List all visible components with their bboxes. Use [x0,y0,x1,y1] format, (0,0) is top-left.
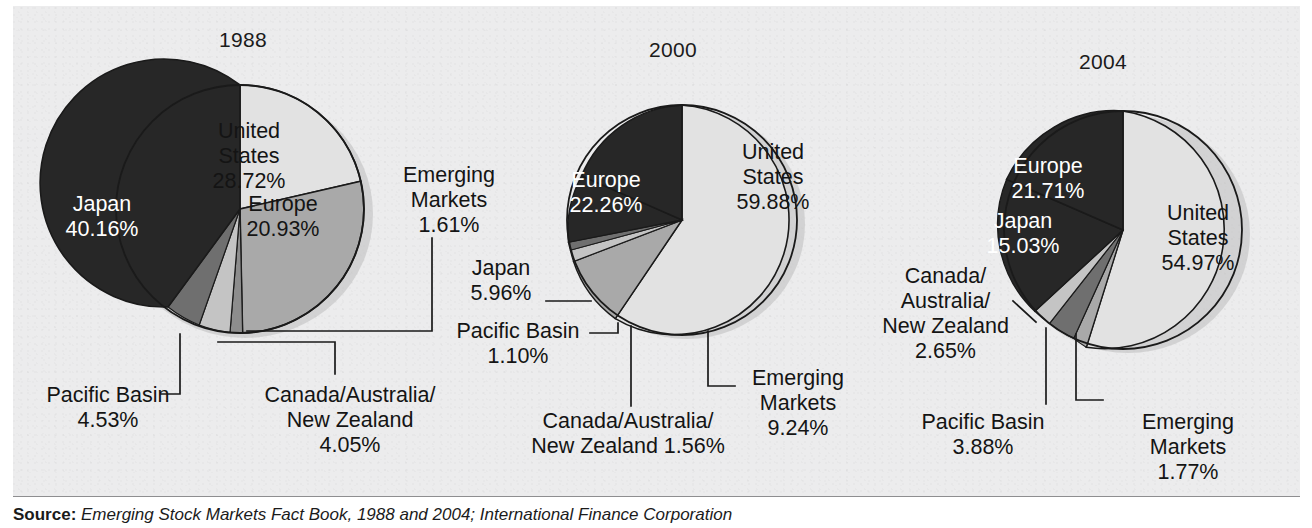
leader-2004-emerging [1076,334,1103,400]
caption-text: Emerging Stock Markets Fact Book, 1988 a… [76,505,732,524]
source-caption: Source: Emerging Stock Markets Fact Book… [13,505,1303,525]
leader-1988-pacific [161,334,180,394]
leader-1988-canada [218,342,335,374]
leader-1988-emerging [247,238,432,331]
chart-panel: 1988 United States 28.72% Europe 20.93% [13,6,1300,497]
leader-2000-emerging [708,331,735,386]
leader-2004-canada [1013,301,1036,322]
leader-2000-pacific [590,323,618,333]
caption-prefix: Source: [13,505,76,524]
figure-root: 1988 United States 28.72% Europe 20.93% [0,0,1312,528]
leader-lines [13,6,1300,497]
